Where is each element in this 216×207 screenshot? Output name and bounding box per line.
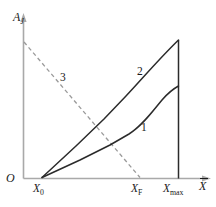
curve-3-label: 3 — [60, 72, 66, 84]
y-axis-label-subscript: J — [20, 17, 24, 26]
x-tick-xmax-subscript: max — [170, 188, 183, 197]
x-tick-label-x0: X0 — [33, 183, 44, 195]
curve-1-label: 1 — [141, 122, 147, 134]
x-tick-x0-base: X — [33, 182, 40, 194]
axes-group — [20, 13, 211, 182]
curve-3-dashed-line — [24, 42, 140, 178]
origin-label: O — [6, 172, 15, 184]
curve-2-label: 2 — [137, 66, 143, 78]
x-axis-label-base: X — [199, 179, 206, 193]
figure-container: AJ O X0 XF Xmax X 1 2 3 — [0, 0, 216, 207]
y-axis-label: AJ — [13, 11, 24, 23]
x-tick-label-xmax: Xmax — [163, 183, 183, 195]
x-tick-label-xf: XF — [131, 183, 142, 195]
x-tick-xf-subscript: F — [138, 188, 142, 197]
curve-2-path — [42, 40, 179, 178]
x-tick-xmax-base: X — [163, 182, 170, 194]
x-tick-x0-subscript: 0 — [40, 188, 44, 197]
x-tick-xf-base: X — [131, 182, 138, 194]
x-axis-label: X — [199, 178, 208, 192]
curve-1-path — [42, 86, 179, 178]
chart-canvas — [0, 0, 216, 207]
